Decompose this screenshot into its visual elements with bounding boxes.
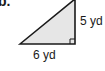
triangle-shape — [20, 0, 75, 44]
base-label: 6 yd — [33, 49, 56, 61]
height-label: 5 yd — [80, 15, 103, 27]
